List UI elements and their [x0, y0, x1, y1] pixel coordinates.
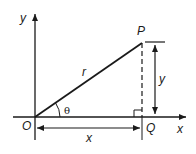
angle-arc — [56, 103, 60, 117]
angle-label: θ — [64, 105, 70, 116]
x-axis-label: x — [176, 122, 184, 136]
x-dimension-label: x — [85, 131, 93, 145]
hypotenuse-line — [35, 43, 142, 117]
point-P-label: P — [137, 24, 145, 38]
origin-label: O — [22, 119, 31, 133]
y-dimension-label: y — [158, 72, 166, 86]
polar-coordinates-diagram: y x r θ y x O P Q — [0, 0, 196, 154]
y-axis-label: y — [19, 11, 27, 25]
hypotenuse-label: r — [82, 65, 87, 79]
right-angle-marker — [134, 110, 142, 117]
point-Q-label: Q — [146, 121, 155, 135]
